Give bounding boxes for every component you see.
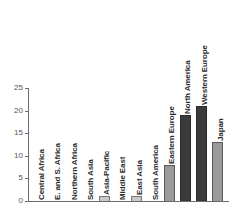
bar-category-label: Northern Africa <box>70 143 79 200</box>
y-axis-tick-label: 20 <box>14 105 23 116</box>
bar-category-label: Eastern Europe <box>167 106 176 164</box>
y-axis-tick-label: 0 <box>19 195 23 206</box>
bar-category-label: Central Africa <box>37 149 46 200</box>
y-axis-tick: 15 <box>0 133 28 134</box>
y-axis-tick-label: 10 <box>14 150 23 161</box>
bar-slot: Central Africa <box>31 86 47 201</box>
y-axis-tick: 20 <box>0 111 28 112</box>
bar-category-label: North America <box>183 61 192 115</box>
bar-category-label: South America <box>151 145 160 200</box>
x-axis-line <box>28 201 229 202</box>
bar-slot: South America <box>145 86 161 201</box>
y-axis-tick: 25 <box>0 88 28 89</box>
bar <box>212 142 223 201</box>
bar-category-label: East Asia <box>135 161 144 196</box>
bar-slot: Middle East <box>112 86 128 201</box>
y-axis-tick-label: 25 <box>14 82 23 93</box>
bar-slot: Western Europe <box>194 86 210 201</box>
bar-slot: Asia-Pacific <box>96 86 112 201</box>
bar-slot: Northern Africa <box>64 86 80 201</box>
bar <box>131 196 142 201</box>
bar-category-label: South Asia <box>86 160 95 201</box>
bar-category-label: Japan <box>216 119 225 142</box>
y-axis-tick: 0 <box>0 201 28 202</box>
bar <box>99 196 110 201</box>
bar <box>196 106 207 201</box>
bar-category-label: Middle East <box>118 157 127 200</box>
bar-slot: North America <box>177 86 193 201</box>
bar-slot: Japan <box>210 86 226 201</box>
y-axis-tick-label: 15 <box>14 127 23 138</box>
bar-slot: E. and S. Africa <box>47 86 63 201</box>
bar-slot: Eastern Europe <box>161 86 177 201</box>
bar <box>180 115 191 201</box>
bar-series: Central AfricaE. and S. AfricaNorthern A… <box>29 86 228 201</box>
bar-category-label: Asia-Pacific <box>102 151 111 195</box>
bar-category-label: Western Europe <box>200 45 209 105</box>
bar-chart: 0510152025 Central AfricaE. and S. Afric… <box>0 0 233 215</box>
y-axis-tick: 10 <box>0 156 28 157</box>
bar-slot: South Asia <box>80 86 96 201</box>
bar-category-label: E. and S. Africa <box>53 143 62 200</box>
bar <box>164 165 175 201</box>
y-axis-tick-label: 5 <box>19 172 23 183</box>
bar-slot: East Asia <box>129 86 145 201</box>
y-axis-tick: 5 <box>0 178 28 179</box>
